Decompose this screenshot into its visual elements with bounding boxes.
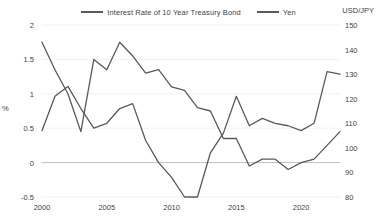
x-axis-tick-label: 2015 bbox=[228, 203, 245, 212]
x-axis-tick-label: 2010 bbox=[163, 203, 180, 212]
chart-container: Interest Rate of 10 Year Treasury Bond Y… bbox=[0, 0, 377, 224]
x-axis-ticks: 20002005201020152020 bbox=[0, 0, 377, 224]
x-axis-tick-label: 2000 bbox=[34, 203, 51, 212]
x-axis-tick-label: 2005 bbox=[98, 203, 115, 212]
x-axis-tick-label: 2020 bbox=[293, 203, 310, 212]
